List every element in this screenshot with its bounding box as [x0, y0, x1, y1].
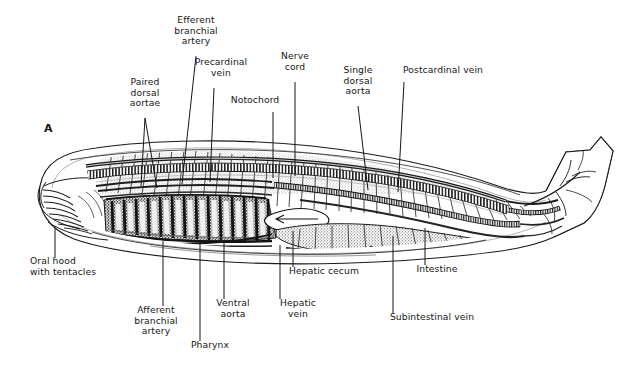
label-afferent-branchial-artery: Afferent branchial artery — [122, 305, 190, 337]
label-precardinal-vein: Precardinal vein — [179, 57, 263, 78]
panel-letter-a: A — [44, 122, 53, 135]
label-notochord: Notochord — [220, 95, 290, 106]
label-nerve-cord: Nerve cord — [268, 51, 322, 72]
label-ventral-aorta: Ventral aorta — [205, 298, 261, 319]
label-intestine: Intestine — [411, 264, 463, 275]
label-hepatic-vein: Hepatic vein — [271, 298, 325, 319]
label-subintestinal-vein: Subintestinal vein — [380, 312, 484, 323]
anatomy-figure: A Efferent branchial artery Paired dorsa… — [0, 0, 632, 384]
label-hepatic-cecum: Hepatic cecum — [283, 266, 365, 277]
label-efferent-branchial-artery: Efferent branchial artery — [156, 15, 236, 47]
label-pharynx: Pharynx — [181, 340, 239, 351]
label-single-dorsal-aorta: Single dorsal aorta — [332, 65, 384, 97]
label-oral-hood-with-tentacles: Oral hood with tentacles — [30, 256, 122, 277]
label-paired-dorsal-aortae: Paired dorsal aortae — [113, 77, 177, 109]
label-postcardinal-vein: Postcardinal vein — [389, 65, 497, 76]
